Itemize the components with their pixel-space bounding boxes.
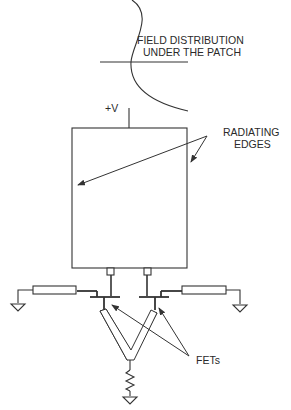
- drain-tabs: [107, 268, 151, 296]
- ground-icon-bottom: [123, 397, 137, 404]
- left-gate-bias: [11, 286, 76, 311]
- field-label-line2: UNDER THE PATCH: [143, 46, 241, 58]
- ground-icon-right: [233, 305, 247, 312]
- fets-arrow-right: [159, 308, 189, 356]
- radiating-label-line1: RADIATING: [223, 126, 279, 138]
- source-resistor: [123, 360, 137, 404]
- right-gate-bias: [182, 286, 247, 312]
- field-label-line1: FIELD DISTRIBUTION: [137, 34, 244, 46]
- supply-label: +V: [105, 102, 118, 114]
- radiating-arrow-right: [191, 136, 207, 162]
- patch-antenna-diagram: FIELD DISTRIBUTION UNDER THE PATCH +V RA…: [0, 0, 291, 410]
- fet-right: [139, 291, 182, 310]
- radiating-label-line2: EDGES: [234, 138, 271, 150]
- radiating-arrow-left: [78, 136, 207, 185]
- fet-left: [77, 291, 120, 310]
- source-v-lines: [100, 309, 157, 360]
- patch-element: [72, 128, 187, 268]
- fets-label: FETs: [196, 354, 220, 366]
- ground-icon-left: [11, 304, 25, 311]
